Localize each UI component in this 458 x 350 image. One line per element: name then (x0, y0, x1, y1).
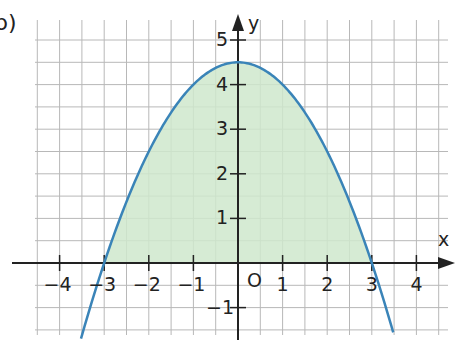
y-tick-label: 2 (216, 164, 228, 183)
y-tick-label: 1 (216, 208, 228, 227)
y-tick-label: 3 (216, 119, 228, 138)
x-axis-arrow-icon (438, 257, 455, 269)
x-tick-label: −4 (44, 275, 72, 294)
y-axis-arrow-icon (232, 14, 244, 31)
y-tick-label: 4 (216, 75, 228, 94)
origin-label: O (247, 271, 262, 290)
x-tick-label: 1 (277, 275, 289, 294)
x-tick-label: 3 (366, 275, 378, 294)
x-tick-label: −1 (177, 275, 205, 294)
y-tick-label: −1 (206, 298, 234, 317)
x-tick-label: 4 (410, 275, 422, 294)
x-tick-label: −2 (133, 275, 161, 294)
x-tick-label: −3 (88, 275, 116, 294)
x-tick-label: 2 (321, 275, 333, 294)
y-tick-label: 5 (216, 30, 228, 49)
x-axis-label: x (438, 230, 449, 249)
y-axis-label: y (248, 14, 259, 33)
